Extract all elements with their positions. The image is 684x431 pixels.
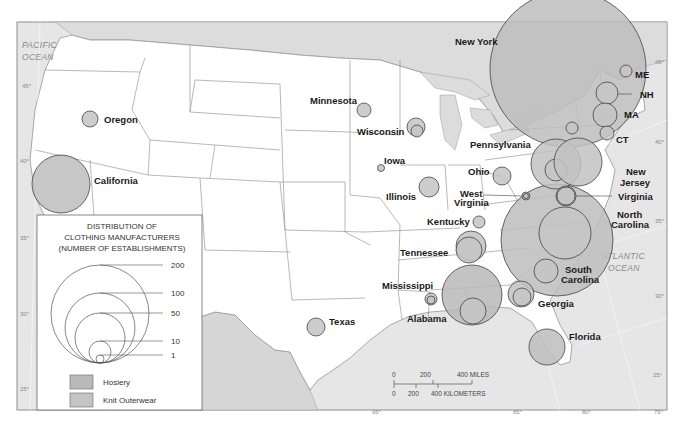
lat-tick-right-35: 35° [655,218,665,224]
circle-kentucky-knit[interactable] [473,216,485,228]
label-north-carolina-line2: Carolina [611,219,650,230]
label-ma: MA [624,109,639,120]
label-new-jersey-line1: New [626,166,646,177]
label-iowa: Iowa [384,155,406,166]
legend-size-1: 1 [171,351,176,360]
legend-size-200: 200 [171,261,185,270]
lon-tick-80: 80° [582,409,592,415]
label-virginia: Virginia [618,191,653,202]
label-georgia: Georgia [538,298,575,309]
lat-tick-left-30: 30° [20,311,30,317]
circle-florida-knit[interactable] [529,329,565,365]
circle-texas-knit[interactable] [307,318,325,336]
lat-tick-left-35: 35° [20,235,30,241]
circle-georgia-hosiery[interactable] [513,288,531,306]
lon-tick-95: 95° [372,409,382,415]
legend: DISTRIBUTION OF CLOTHING MANUFACTURERS (… [37,215,202,410]
label-tennessee: Tennessee [400,247,448,258]
label-california: California [94,175,139,186]
circle-oregon-knit[interactable] [82,111,98,127]
lon-tick-75: 75° [654,409,664,415]
scale-km-0: 0 [392,390,396,397]
legend-swatch-hosiery [70,375,93,389]
legend-size-50: 50 [171,309,180,318]
label-ohio: Ohio [468,166,490,177]
legend-size-100: 100 [171,289,185,298]
legend-label-hosiery: Hosiery [103,378,130,387]
label-wisconsin: Wisconsin [357,126,405,137]
circle-ma-knit[interactable] [593,103,617,127]
circle-alabama-hosiery[interactable] [460,298,486,324]
lat-tick-right-30: 30° [655,293,665,299]
label-ct: CT [616,134,629,145]
pacific-ocean-label-line1: PACIFIC [22,40,58,50]
atlantic-ocean-label-line2: OCEAN [608,263,640,273]
label-new-york: New York [455,36,498,47]
circle-virginia-knit[interactable] [556,186,576,206]
circle-wisconsin-hosiery[interactable] [411,125,423,137]
circle-tennessee-hosiery[interactable] [456,237,482,263]
circle-minnesota-knit[interactable] [357,103,371,117]
lon-tick-85: 85° [513,409,523,415]
legend-label-knit-outerwear: Knit Outerwear [103,396,157,405]
scale-km-200: 200 [408,390,419,397]
circle-illinois-knit[interactable] [419,177,439,197]
circle-me-knit[interactable] [620,65,632,77]
lat-tick-right-45: 45° [655,59,665,65]
circle-ohio-knit[interactable] [493,167,511,185]
circle-new-jersey-knit[interactable] [554,138,602,186]
lat-tick-left-40: 40° [20,158,30,164]
clothing-manufacturers-map: PACIFIC OCEAN ATLANTIC OCEAN 45° 40° 35°… [0,0,684,431]
circle-ny-small[interactable] [566,122,578,134]
label-mississippi: Mississippi [382,280,433,291]
circle-mississippi-hosiery[interactable] [427,296,435,304]
label-illinois: Illinois [386,191,416,202]
pacific-ocean-label-line2: OCEAN [22,52,54,62]
legend-swatch-knit-outerwear [70,393,93,407]
legend-title-line2: CLOTHING MANUFACTURERS [64,233,180,242]
label-pennsylvania: Pennsylvania [470,139,531,150]
circle-california-knit[interactable] [32,155,90,213]
label-west-virginia-line2: Virginia [454,197,489,208]
scale-miles-0: 0 [392,371,396,378]
scale-miles-200: 200 [420,371,431,378]
label-oregon: Oregon [104,114,138,125]
label-kentucky: Kentucky [427,216,470,227]
legend-size-10: 10 [171,337,180,346]
circle-ct-knit[interactable] [600,126,614,140]
circle-nh-hosiery[interactable] [596,82,618,104]
scale-km-400: 400 KILOMETERS [431,390,486,397]
label-minnesota: Minnesota [310,95,358,106]
legend-title-line1: DISTRIBUTION OF [87,222,157,231]
label-south-carolina-line2: Carolina [561,274,600,285]
legend-title-line3: (NUMBER OF ESTABLISHMENTS) [59,244,186,253]
lat-tick-right-40: 40° [655,139,665,145]
lat-tick-left-45: 45° [22,83,32,89]
circle-south-carolina-knit[interactable] [534,259,558,283]
label-nh: NH [640,89,654,100]
lat-tick-left-25: 25° [20,386,30,392]
circle-north-carolina-hosiery[interactable] [539,207,591,259]
label-new-jersey-line2: Jersey [620,177,651,188]
label-alabama: Alabama [407,313,447,324]
lat-tick-right-25: 25° [653,372,663,378]
label-florida: Florida [569,331,601,342]
label-texas: Texas [329,316,355,327]
label-me: ME [635,69,649,80]
scale-miles-400: 400 MILES [457,371,490,378]
